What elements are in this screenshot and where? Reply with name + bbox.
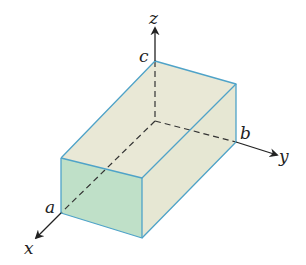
x-axis-label: x	[24, 238, 34, 258]
a-label: a	[45, 197, 55, 217]
b-label: b	[240, 123, 251, 143]
y-axis	[236, 142, 277, 155]
rectangular-box-diagram: z y x c b a	[0, 0, 306, 265]
c-label: c	[139, 46, 149, 66]
y-axis-label: y	[278, 146, 289, 166]
z-axis-label: z	[148, 8, 159, 28]
